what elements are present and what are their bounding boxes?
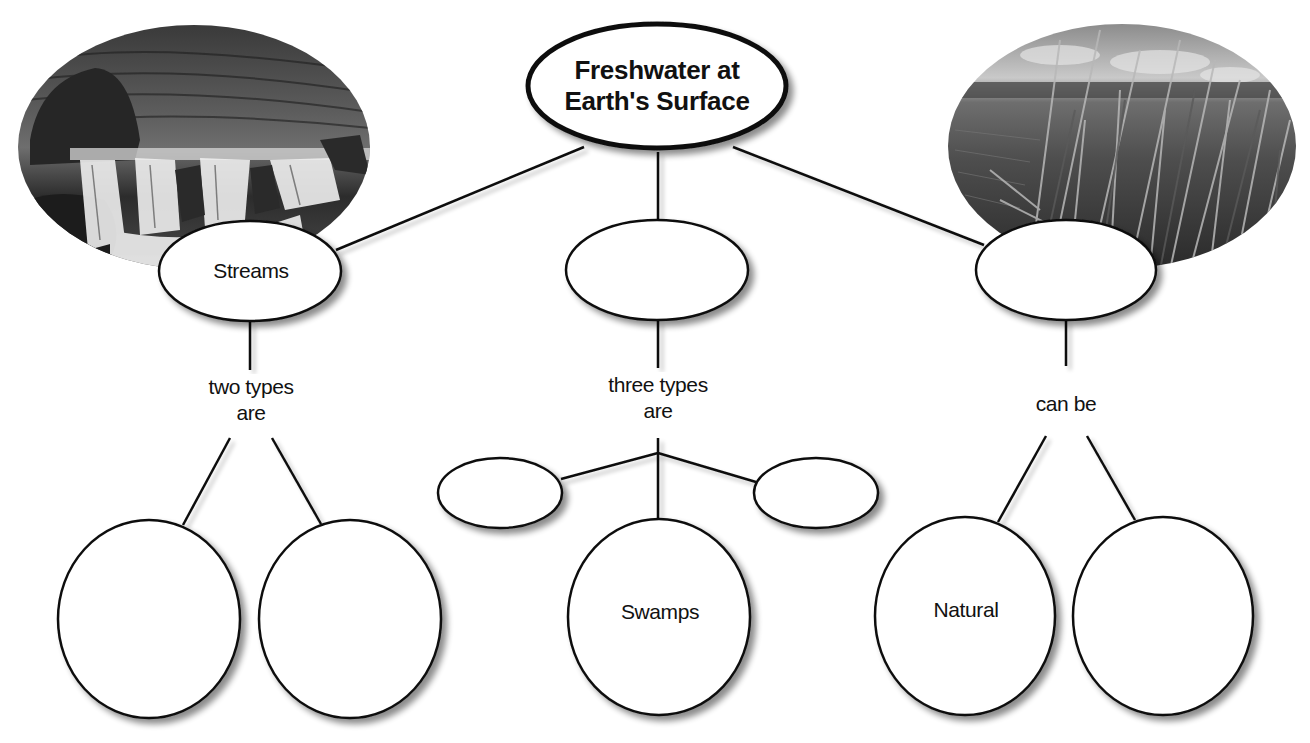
title-node: [528, 24, 786, 148]
left-link-label: two types are: [208, 374, 293, 426]
streams-node: [159, 221, 341, 321]
blank-right-child-2-field[interactable]: [1077, 521, 1249, 711]
center-link-label-line-2: are: [608, 398, 708, 424]
connector-junction-to-small-right: [658, 453, 756, 482]
left-link-label-line-1: two types: [208, 374, 293, 400]
connector-label-to-right-child-2: [1087, 436, 1135, 520]
natural-node: [875, 517, 1055, 715]
blank-center-small-left-field[interactable]: [441, 461, 559, 525]
right-link-label: can be: [1036, 391, 1097, 417]
connector-label-to-left-child-1: [183, 438, 230, 525]
connector-title-to-streams: [336, 147, 584, 250]
blank-left-child-1-field[interactable]: [62, 524, 238, 714]
blank-right-concept-field[interactable]: [980, 224, 1154, 318]
connector-title-to-right: [733, 147, 984, 245]
left-link-label-line-2: are: [208, 400, 293, 426]
swamps-node: [568, 519, 750, 715]
center-link-label-line-1: three types: [608, 372, 708, 398]
connector-label-to-left-child-2: [272, 438, 321, 524]
blank-center-concept-field[interactable]: [570, 224, 746, 318]
connector-junction-to-small-left: [561, 453, 658, 479]
connector-label-to-right-child-1: [998, 436, 1046, 522]
blank-center-small-right-field[interactable]: [757, 461, 875, 525]
blank-left-child-2-field[interactable]: [263, 524, 439, 714]
right-link-label-line-1: can be: [1036, 391, 1097, 417]
center-link-label: three types are: [608, 372, 708, 424]
